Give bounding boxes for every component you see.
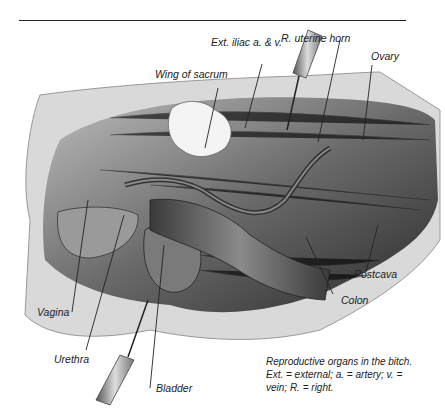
caption-line-1: Reproductive organs in the bitch.	[266, 355, 436, 368]
label-postcava: Postcava	[354, 268, 397, 280]
label-wing-of-sacrum: Wing of sacrum	[155, 68, 228, 80]
caption-line-3: vein; R. = right.	[266, 381, 436, 394]
label-ext-iliac: Ext. iliac a. & v.	[211, 36, 282, 48]
figure-caption: Reproductive organs in the bitch. Ext. =…	[266, 355, 436, 394]
label-bladder: Bladder	[156, 382, 192, 394]
label-ovary: Ovary	[371, 50, 399, 62]
label-urethra: Urethra	[54, 353, 89, 365]
label-colon: Colon	[341, 294, 368, 306]
caption-line-2: Ext. = external; a. = artery; v. =	[266, 368, 436, 381]
label-vagina: Vagina	[37, 306, 69, 318]
label-r-uterine-horn: R. uterine horn	[281, 32, 350, 44]
